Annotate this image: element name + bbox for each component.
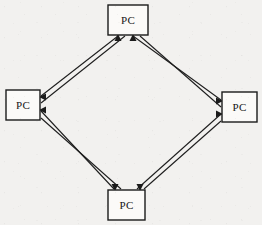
node-pc-bottom-label: PC [120,199,134,211]
link-group [41,36,221,189]
link-bottom-right[interactable] [137,114,221,189]
node-pc-top[interactable]: PC [108,5,148,35]
link-bottom-right-line-b [144,121,221,189]
node-pc-right[interactable]: PC [222,92,257,122]
link-top-right-line-b [140,36,221,107]
diagram-canvas: PC PC PC PC [0,0,262,225]
link-top-right[interactable] [133,36,221,107]
node-pc-bottom[interactable]: PC [108,190,145,220]
link-top-left[interactable] [41,36,125,103]
link-top-left-line-b [41,36,125,103]
link-bottom-left-line-b [41,118,121,189]
link-top-left-line-a [41,36,118,96]
node-pc-right-label: PC [233,101,247,113]
link-bottom-left[interactable] [41,111,121,189]
node-pc-left[interactable]: PC [6,90,40,120]
node-pc-left-label: PC [16,99,30,111]
arrowhead-group [39,34,223,191]
node-pc-top-label: PC [121,14,135,26]
network-diagram: PC PC PC PC [0,0,262,225]
link-bottom-right-line-a [137,114,221,189]
